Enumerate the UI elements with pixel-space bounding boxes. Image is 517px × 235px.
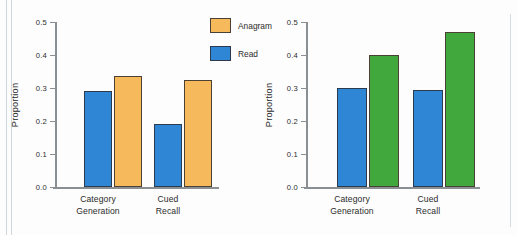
x-group-label-right-2: Cued Recall (416, 194, 440, 217)
x-group-label-right-1-line2: Generation (330, 206, 374, 218)
bars-container-left (55, 22, 205, 187)
chart-panel-left: Proportion 0.5 0.4 0.3 0.2 0.1 0.0 (0, 0, 258, 235)
x-group-label-right-1: Category Generation (330, 194, 374, 217)
y-tick-label-left-1: 0.4 (36, 51, 47, 60)
bar-right-sorted-cued[interactable] (445, 32, 475, 187)
bar-left-read-category[interactable] (84, 91, 112, 187)
y-tick-label-right-3: 0.2 (287, 117, 298, 126)
y-axis-label-right: Proportion (264, 82, 274, 126)
figure-page: Proportion 0.5 0.4 0.3 0.2 0.1 0.0 (0, 0, 517, 235)
legend-swatch-read-left (210, 46, 231, 61)
x-axis-line-right (304, 187, 480, 189)
y-tick-label-right-1: 0.4 (287, 51, 298, 60)
bar-left-anagram-cued[interactable] (184, 80, 212, 187)
legend-label-read-left: Read (238, 49, 258, 59)
x-group-label-left-2-line1: Cued (156, 194, 180, 206)
bar-right-sorted-category[interactable] (369, 55, 399, 187)
bar-chart-figure: Proportion 0.5 0.4 0.3 0.2 0.1 0.0 (0, 0, 517, 235)
bar-left-anagram-category[interactable] (114, 76, 142, 187)
y-tick-label-left-5: 0.0 (36, 183, 47, 192)
x-group-label-right-2-line1: Cued (416, 194, 440, 206)
x-group-label-left-2-line2: Recall (156, 206, 180, 218)
chart-panel-right: Proportion 0.5 0.4 0.3 0.2 0.1 0.0 (258, 0, 517, 235)
x-axis-line-left (53, 187, 219, 189)
x-group-label-left-1-line2: Generation (76, 206, 120, 218)
bar-right-read-cued[interactable] (413, 90, 443, 187)
y-tick-label-left-4: 0.1 (36, 150, 47, 159)
x-group-label-left-1: Category Generation (76, 194, 120, 217)
y-tick-label-right-0: 0.5 (287, 18, 298, 27)
x-group-label-left-1-line1: Category (76, 194, 120, 206)
bar-left-read-cued[interactable] (154, 124, 182, 187)
plot-area-left: Proportion 0.5 0.4 0.3 0.2 0.1 0.0 (55, 22, 205, 187)
bars-container-right (306, 22, 466, 187)
legend-swatch-anagram (210, 18, 231, 33)
y-tick-label-left-2: 0.3 (36, 84, 47, 93)
y-tick-label-left-0: 0.5 (36, 18, 47, 27)
y-tick-left-5 (50, 187, 55, 188)
y-tick-label-right-4: 0.1 (287, 150, 298, 159)
y-axis-label-left: Proportion (10, 82, 20, 126)
y-tick-right-5 (301, 187, 306, 188)
x-group-label-right-1-line1: Category (330, 194, 374, 206)
plot-area-right: Proportion 0.5 0.4 0.3 0.2 0.1 0.0 (306, 22, 466, 187)
bar-right-read-category[interactable] (337, 88, 367, 187)
x-group-label-right-2-line2: Recall (416, 206, 440, 218)
y-tick-label-right-2: 0.3 (287, 84, 298, 93)
x-group-label-left-2: Cued Recall (156, 194, 180, 217)
y-tick-label-left-3: 0.2 (36, 117, 47, 126)
y-tick-label-right-5: 0.0 (287, 183, 298, 192)
